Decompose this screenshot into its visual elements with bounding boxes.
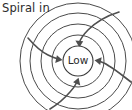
arrow-left	[28, 38, 63, 63]
arrow-bottom	[50, 78, 80, 109]
spiral-in-diagram: Spiral in Low	[0, 0, 132, 110]
spiral-in-label: Spiral in	[2, 1, 50, 15]
low-center-label: Low	[63, 54, 93, 67]
